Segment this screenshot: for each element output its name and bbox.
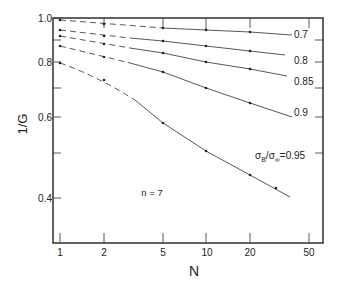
y-tick-1-0: 1.0 — [38, 13, 52, 24]
y-axis-title: 1/G — [15, 114, 30, 135]
label-0-8: 0.8 — [294, 55, 308, 66]
n-annotation: n = 7 — [141, 187, 162, 198]
x-tick-1: 1 — [57, 247, 63, 258]
y-tick-labels: 1.0 0.8 0.6 0.4 — [38, 13, 52, 204]
y-tick-0-8: 0.8 — [38, 57, 52, 68]
series-0-7 — [59, 19, 292, 35]
y-ticks — [53, 18, 323, 198]
y-tick-0-6: 0.6 — [38, 112, 52, 123]
x-tick-5: 5 — [160, 247, 166, 258]
series-0-95 — [59, 62, 290, 197]
x-axis-title: N — [189, 263, 199, 279]
label-0-7: 0.7 — [294, 29, 308, 40]
plot-frame — [53, 18, 323, 243]
x-tick-20: 20 — [244, 247, 256, 258]
x-ticks — [60, 18, 309, 243]
label-0-9: 0.9 — [294, 107, 308, 118]
x-tick-labels: 1 2 5 10 20 50 — [57, 247, 315, 258]
label-0-95: σB/σ∞=0.95 — [255, 150, 306, 163]
chart: 1 2 5 10 20 50 1.0 0.8 0.6 0.4 N 1/G n =… — [0, 0, 342, 291]
x-tick-10: 10 — [201, 247, 213, 258]
series-0-85 — [59, 35, 287, 76]
series-labels: 0.7 0.8 0.85 0.9 σB/σ∞=0.95 — [255, 29, 314, 163]
label-0-85: 0.85 — [294, 76, 314, 87]
x-tick-2: 2 — [101, 247, 107, 258]
y-tick-0-4: 0.4 — [38, 193, 52, 204]
value-095: =0.95 — [280, 150, 306, 161]
x-tick-50: 50 — [303, 247, 315, 258]
